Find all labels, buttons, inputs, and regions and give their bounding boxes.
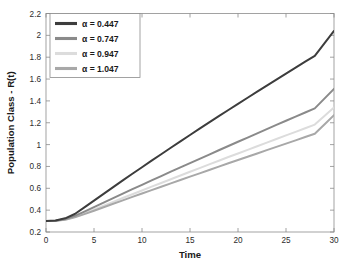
- x-tick-label: 25: [281, 236, 291, 245]
- x-tick-label: 15: [185, 236, 195, 245]
- x-axis-title: Time: [179, 249, 201, 260]
- y-tick-label: 1.6: [30, 75, 42, 84]
- x-tick-label: 10: [137, 236, 147, 245]
- x-tick-label: 5: [92, 236, 97, 245]
- x-tick-label: 0: [44, 236, 49, 245]
- y-tick-label: 0.4: [30, 206, 42, 215]
- y-tick-label: 1.4: [30, 97, 42, 106]
- x-tick-label: 20: [233, 236, 243, 245]
- legend-label-0: α = 0.447: [82, 19, 119, 29]
- legend-label-3: α = 1.047: [82, 64, 119, 74]
- y-axis-title: Population Class - R(t): [5, 71, 16, 174]
- figure-container: 0.20.40.60.811.21.41.61.822.205101520253…: [0, 0, 356, 271]
- y-tick-label: 2: [36, 31, 41, 40]
- y-tick-label: 0.8: [30, 162, 42, 171]
- y-tick-label: 2.2: [30, 10, 42, 19]
- legend-label-1: α = 0.747: [82, 34, 119, 44]
- line-chart: 0.20.40.60.811.21.41.61.822.205101520253…: [0, 0, 356, 271]
- y-tick-label: 1.8: [30, 53, 42, 62]
- y-tick-label: 1: [36, 141, 41, 150]
- legend-label-2: α = 0.947: [82, 49, 119, 59]
- y-tick-label: 1.2: [30, 119, 42, 128]
- x-tick-label: 30: [329, 236, 339, 245]
- y-tick-label: 0.6: [30, 184, 42, 193]
- y-tick-label: 0.2: [30, 228, 42, 237]
